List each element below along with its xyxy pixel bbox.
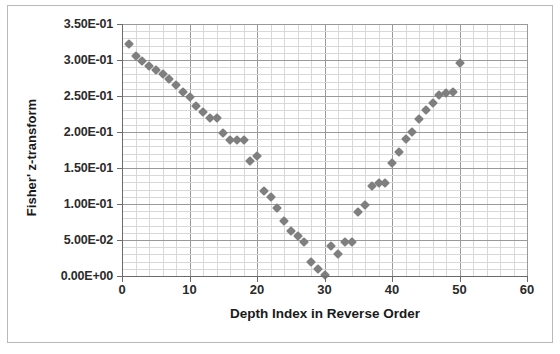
y-axis-tick-label: 5.00E-02 bbox=[5, 233, 113, 247]
data-point bbox=[191, 101, 201, 111]
y-axis-tick-label: 2.50E-01 bbox=[5, 89, 113, 103]
data-point bbox=[266, 192, 276, 202]
data-point bbox=[286, 226, 296, 236]
grid-line-horizontal bbox=[122, 103, 527, 104]
grid-line-horizontal-major bbox=[122, 24, 527, 25]
grid-line-vertical bbox=[163, 24, 164, 276]
data-point bbox=[164, 74, 174, 84]
data-point bbox=[185, 92, 195, 102]
grid-line-vertical bbox=[406, 24, 407, 276]
grid-line-horizontal bbox=[122, 168, 527, 169]
grid-line-vertical bbox=[419, 24, 420, 276]
y-axis-tick bbox=[117, 132, 122, 133]
data-point bbox=[293, 231, 303, 241]
grid-line-vertical bbox=[352, 24, 353, 276]
grid-line-horizontal-major bbox=[122, 168, 527, 169]
data-point bbox=[272, 203, 282, 213]
x-axis-tick-label: 50 bbox=[452, 282, 466, 297]
grid-line-vertical bbox=[217, 24, 218, 276]
grid-line-vertical bbox=[136, 24, 137, 276]
data-point bbox=[137, 56, 147, 66]
grid-line-horizontal bbox=[122, 269, 527, 270]
data-point bbox=[394, 147, 404, 157]
grid-line-vertical bbox=[230, 24, 231, 276]
y-axis-tick-label: 3.00E-01 bbox=[5, 53, 113, 67]
y-axis-tick bbox=[117, 276, 122, 277]
data-point bbox=[252, 152, 262, 162]
y-axis-tick-label: 3.50E-01 bbox=[5, 17, 113, 31]
y-axis-tick bbox=[117, 240, 122, 241]
grid-line-vertical bbox=[514, 24, 515, 276]
data-point bbox=[353, 207, 363, 217]
grid-line-vertical bbox=[446, 24, 447, 276]
grid-layer bbox=[122, 24, 527, 276]
data-point bbox=[414, 114, 424, 124]
data-point bbox=[313, 264, 323, 274]
grid-line-vertical-major bbox=[392, 24, 393, 276]
data-point bbox=[380, 178, 390, 188]
data-point bbox=[428, 98, 438, 108]
grid-line-horizontal bbox=[122, 146, 527, 147]
grid-line-vertical bbox=[203, 24, 204, 276]
grid-line-horizontal bbox=[122, 132, 527, 133]
grid-line-vertical bbox=[311, 24, 312, 276]
grid-line-vertical bbox=[176, 24, 177, 276]
data-point bbox=[198, 107, 208, 117]
grid-line-horizontal-major bbox=[122, 60, 527, 61]
grid-line-horizontal bbox=[122, 161, 527, 162]
grid-line-horizontal bbox=[122, 240, 527, 241]
data-point bbox=[171, 80, 181, 90]
grid-line-horizontal bbox=[122, 226, 527, 227]
data-point bbox=[205, 113, 215, 123]
grid-line-horizontal bbox=[122, 96, 527, 97]
grid-line-horizontal bbox=[122, 67, 527, 68]
grid-line-horizontal bbox=[122, 233, 527, 234]
data-point bbox=[434, 90, 444, 100]
data-point bbox=[178, 87, 188, 97]
grid-line-horizontal bbox=[122, 125, 527, 126]
grid-line-vertical-major bbox=[325, 24, 326, 276]
grid-line-horizontal-major bbox=[122, 132, 527, 133]
data-point bbox=[225, 135, 235, 145]
data-point bbox=[158, 69, 168, 79]
x-axis-tick-label: 0 bbox=[118, 282, 125, 297]
grid-line-vertical bbox=[271, 24, 272, 276]
grid-line-horizontal bbox=[122, 262, 527, 263]
y-axis-tick bbox=[117, 204, 122, 205]
y-axis-tick bbox=[117, 60, 122, 61]
grid-line-vertical bbox=[500, 24, 501, 276]
grid-line-horizontal-major bbox=[122, 96, 527, 97]
grid-line-vertical bbox=[257, 24, 258, 276]
grid-line-horizontal bbox=[122, 154, 527, 155]
x-axis-tick-label: 40 bbox=[385, 282, 399, 297]
grid-line-vertical-major bbox=[257, 24, 258, 276]
data-point bbox=[131, 51, 141, 61]
grid-line-vertical bbox=[298, 24, 299, 276]
grid-line-horizontal bbox=[122, 190, 527, 191]
data-point bbox=[212, 113, 222, 123]
grid-line-vertical bbox=[392, 24, 393, 276]
data-point bbox=[151, 65, 161, 75]
grid-line-vertical bbox=[460, 24, 461, 276]
grid-line-horizontal bbox=[122, 82, 527, 83]
data-point bbox=[374, 178, 384, 188]
grid-line-horizontal bbox=[122, 38, 527, 39]
data-point bbox=[455, 58, 465, 68]
data-point bbox=[279, 216, 289, 226]
grid-line-horizontal-major bbox=[122, 240, 527, 241]
data-point bbox=[124, 39, 134, 49]
grid-line-horizontal bbox=[122, 139, 527, 140]
data-point bbox=[441, 88, 451, 98]
grid-line-vertical-major bbox=[460, 24, 461, 276]
data-point bbox=[259, 186, 269, 196]
grid-line-horizontal-major bbox=[122, 204, 527, 205]
grid-line-horizontal bbox=[122, 247, 527, 248]
data-point bbox=[407, 127, 417, 137]
y-axis-tick-label: 0.00E+00 bbox=[5, 269, 113, 283]
x-axis-tick-label: 60 bbox=[520, 282, 534, 297]
grid-line-vertical bbox=[487, 24, 488, 276]
data-point bbox=[232, 135, 242, 145]
grid-line-vertical bbox=[325, 24, 326, 276]
data-point bbox=[326, 241, 336, 251]
y-axis-tick-label: 1.00E-01 bbox=[5, 197, 113, 211]
